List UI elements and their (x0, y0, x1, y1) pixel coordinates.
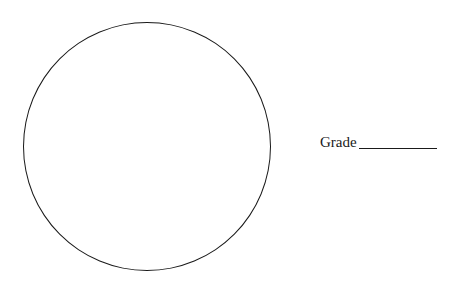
worksheet-page: Grade (0, 0, 473, 300)
grade-label: Grade (320, 135, 357, 151)
grade-field: Grade (320, 135, 437, 151)
drawing-circle (23, 22, 271, 271)
grade-blank-line[interactable] (359, 148, 437, 149)
